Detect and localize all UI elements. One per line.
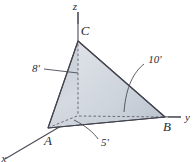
vertex-label-a: A [43,133,52,148]
vertex-label-c: C [81,23,90,38]
dimension-label-8ft: 8' [32,62,41,74]
figure-canvas: z y x C A B 8' 10' 5' [0,0,194,162]
vertex-label-b: B [163,119,171,134]
y-axis-label: y [184,111,190,123]
tetrahedron-figure: z y x C A B 8' 10' 5' [0,0,194,162]
dimension-label-10ft: 10' [148,53,162,65]
dimension-label-5ft: 5' [101,136,110,148]
x-axis-label: x [1,152,7,162]
z-axis-label: z [72,0,78,12]
